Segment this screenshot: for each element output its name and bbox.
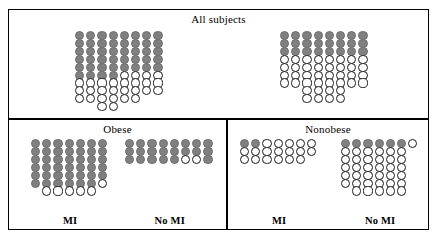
open-dot [86, 94, 95, 103]
panel-obese: Obese MI No MI [8, 119, 227, 230]
open-dot [120, 94, 129, 103]
filled-dot [125, 155, 134, 164]
filled-dot [170, 155, 179, 164]
open-dot [352, 186, 361, 195]
open-dot [131, 94, 140, 103]
open-dot [97, 102, 106, 111]
open-dot [296, 155, 305, 164]
open-dot [408, 139, 417, 148]
open-dot [98, 179, 107, 188]
panel-title-all-subjects: All subjects [9, 13, 428, 25]
open-dot [153, 86, 162, 95]
dot-group-obese-mi: MI [31, 139, 109, 196]
dot-grid [75, 31, 165, 111]
dot-group-obese-no-mi: No MI [125, 139, 215, 164]
dot-group-nonobese-no-mi: No MI [341, 139, 419, 196]
filled-dot [31, 179, 40, 188]
group-label-obese-mi: MI [31, 215, 109, 226]
filled-dot [136, 155, 145, 164]
open-dot [262, 155, 271, 164]
open-dot [397, 186, 406, 195]
filled-dot [159, 155, 168, 164]
panel-all-subjects: All subjects MI No MI [8, 9, 429, 119]
open-dot [192, 155, 201, 164]
open-dot [65, 186, 74, 195]
open-dot [75, 94, 84, 103]
open-dot [109, 102, 118, 111]
open-dot [291, 78, 300, 87]
open-dot [76, 186, 85, 195]
open-dot [341, 179, 350, 188]
panel-title-obese: Obese [9, 123, 226, 135]
filled-dot [203, 155, 212, 164]
panel-title-nonobese: Nonobese [228, 123, 428, 135]
open-dot [363, 186, 372, 195]
group-label-obese-no-mi: No MI [125, 215, 215, 226]
open-dot [358, 78, 367, 87]
dot-group-all-subjects-no-mi: No MI [280, 31, 370, 103]
filled-dot [147, 155, 156, 164]
open-dot [375, 186, 384, 195]
dot-grid [240, 139, 318, 164]
open-dot [142, 86, 151, 95]
open-dot [280, 78, 289, 87]
dot-grid [341, 139, 419, 196]
open-dot [307, 147, 316, 156]
group-label-nonobese-mi: MI [240, 215, 318, 226]
open-dot [181, 155, 190, 164]
open-dot [347, 78, 356, 87]
figure-root: All subjects MI No MI Obese MI No MI Non… [0, 0, 437, 239]
open-dot [302, 94, 311, 103]
open-dot [285, 155, 294, 164]
open-dot [274, 155, 283, 164]
open-dot [251, 155, 260, 164]
open-dot [386, 186, 395, 195]
group-label-nonobese-no-mi: No MI [341, 215, 419, 226]
open-dot [87, 186, 96, 195]
open-dot [325, 94, 334, 103]
dot-grid [31, 139, 109, 196]
open-dot [240, 155, 249, 164]
open-dot [42, 186, 51, 195]
panel-nonobese: Nonobese MI No MI [227, 119, 429, 230]
dot-group-all-subjects-mi: MI [75, 31, 165, 111]
dot-grid [125, 139, 215, 164]
dot-group-nonobese-mi: MI [240, 139, 318, 164]
dot-grid [280, 31, 370, 103]
open-dot [53, 186, 62, 195]
open-dot [314, 94, 323, 103]
open-dot [336, 94, 345, 103]
